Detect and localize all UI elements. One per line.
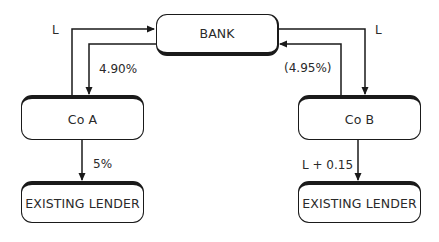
edge-label-co-a-to-lender: 5% — [93, 157, 112, 171]
edge-label-co-b-to-lender: L + 0.15 — [302, 158, 353, 172]
edge-label-bank-to-co-b: L — [375, 23, 382, 37]
edge-label-co-b-to-bank: (4.95%) — [284, 61, 331, 75]
node-bank-label: BANK — [199, 26, 234, 41]
node-existing-lender-b: EXISTING LENDER — [298, 181, 421, 223]
node-existing-lender-a-label: EXISTING LENDER — [25, 196, 139, 211]
node-co-b: Co B — [298, 95, 421, 140]
edge-label-bank-to-co-a: 4.90% — [99, 62, 137, 76]
node-co-a: Co A — [21, 95, 144, 140]
node-existing-lender-b-label: EXISTING LENDER — [302, 196, 416, 211]
node-bank: BANK — [156, 14, 279, 56]
node-existing-lender-a: EXISTING LENDER — [21, 181, 144, 223]
node-co-a-label: Co A — [68, 112, 97, 127]
node-co-b-label: Co B — [345, 112, 374, 127]
edge-label-co-a-to-bank: L — [52, 23, 59, 37]
